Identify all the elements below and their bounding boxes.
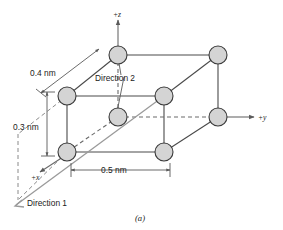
atom-mid-back-right: [209, 108, 227, 126]
direction-1-line: [16, 96, 164, 205]
cell-edges-solid: [67, 55, 218, 152]
dimension-0-3-nm: [41, 92, 55, 156]
edge-top-right-diagonal: [164, 55, 218, 96]
x-axis-label: +x: [31, 173, 40, 182]
atom-top-front-right: [155, 87, 173, 105]
atom-top-back-right: [209, 46, 227, 64]
atom-top-front-left: [58, 87, 76, 105]
atom-bottom-left: [58, 143, 76, 161]
z-axis-label: +z: [113, 10, 121, 19]
unit-cell-figure: +z +y +x 0.4 nm 0.3 nm 0.5 nm Direction …: [0, 0, 283, 230]
y-axis-label: +y: [258, 113, 267, 122]
dimension-0-3-label: 0.3 nm: [13, 122, 39, 132]
direction-2-label: Direction 2: [95, 73, 135, 83]
cell-edges-hidden: [67, 55, 218, 152]
atom-top-back-left: [109, 46, 127, 64]
atom-group: [58, 46, 227, 161]
dimension-0-5-label: 0.5 nm: [101, 165, 127, 175]
atom-bottom-right: [155, 143, 173, 161]
x-axis-line: [40, 157, 63, 172]
atom-origin: [109, 108, 127, 126]
figure-caption: (a): [135, 213, 145, 223]
edge-bottom-right-diagonal: [164, 117, 218, 152]
dimension-0-4-label: 0.4 nm: [30, 68, 56, 78]
direction-1-label: Direction 1: [27, 198, 67, 208]
unit-cell-diagram: +z +y +x 0.4 nm 0.3 nm 0.5 nm Direction …: [0, 0, 283, 230]
direction-1-arrowhead: [15, 200, 24, 207]
